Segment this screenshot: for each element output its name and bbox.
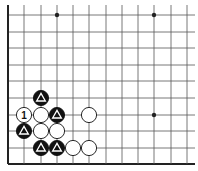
stone-body xyxy=(81,107,96,122)
white-stone xyxy=(81,107,96,122)
star-point xyxy=(152,113,156,117)
white-stone xyxy=(33,123,48,138)
go-board: 1 xyxy=(0,0,198,171)
black-stone xyxy=(49,107,64,122)
stone-body xyxy=(49,123,64,138)
board-grid xyxy=(8,5,195,164)
white-stone xyxy=(33,107,48,122)
move-number-label: 1 xyxy=(21,110,27,121)
stone-body xyxy=(65,140,80,155)
stone-body xyxy=(33,107,48,122)
black-stone xyxy=(49,140,64,155)
stone-body xyxy=(33,123,48,138)
stones: 1 xyxy=(16,90,96,155)
white-stone: 1 xyxy=(16,107,31,122)
star-point xyxy=(55,13,59,17)
star-point xyxy=(152,13,156,17)
white-stone xyxy=(81,140,96,155)
black-stone xyxy=(16,123,31,138)
black-stone xyxy=(33,140,48,155)
stone-body xyxy=(81,140,96,155)
black-stone xyxy=(33,90,48,105)
white-stone xyxy=(49,123,64,138)
white-stone xyxy=(65,140,80,155)
